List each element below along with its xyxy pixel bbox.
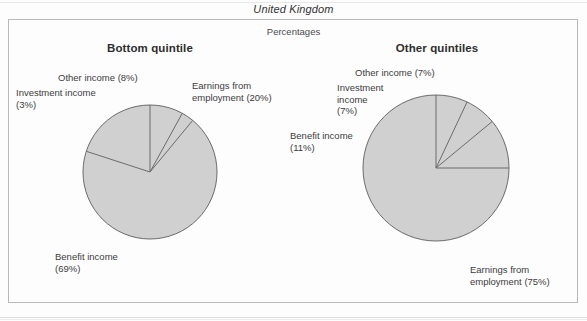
- slice-label-left-investment-income: Investment income (3%): [16, 87, 96, 110]
- slice-label-left-benefit-income: Benefit income (69%): [55, 251, 118, 274]
- slice-label-left-other-income: Other income (8%): [58, 72, 138, 84]
- slice-label-right-benefit-income: Benefit income (11%): [290, 130, 353, 153]
- slice-label-right-other-income: Other income (7%): [355, 67, 435, 79]
- chart-heading-bottom-quintile: Bottom quintile: [80, 42, 220, 54]
- slice-label-right-investment-income: Investment income (7%): [337, 82, 383, 117]
- chart-heading-other-quintiles: Other quintiles: [367, 42, 507, 54]
- figure-page: United Kingdom Percentages Bottom quinti…: [0, 0, 587, 321]
- figure-country-title: United Kingdom: [0, 3, 587, 15]
- units-label: Percentages: [0, 26, 587, 37]
- scan-artifact-line-bottom-2: [0, 319, 587, 320]
- scan-artifact-line-bottom: [0, 317, 587, 318]
- slice-label-left-earnings-from-employment: Earnings from employment (20%): [192, 80, 272, 103]
- slice-label-right-earnings-from-employment: Earnings from employment (75%): [470, 264, 550, 287]
